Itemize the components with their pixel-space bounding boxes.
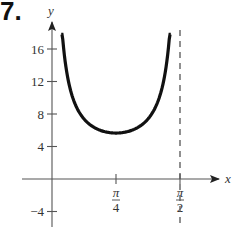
x-axis-label: x [224, 171, 231, 186]
x-ticks: π4π2 [112, 174, 184, 215]
x-tick-label-denominator: 4 [113, 200, 120, 215]
chart: x y −4481216 π4π2 [0, 0, 235, 230]
axes: x y [22, 3, 231, 227]
y-ticks: −4481216 [30, 42, 57, 220]
y-axis-label: y [46, 3, 54, 18]
y-tick-label: 12 [31, 74, 44, 89]
y-tick-label: 4 [38, 139, 45, 154]
x-tick-label-numerator: π [113, 185, 120, 200]
y-tick-label: 16 [31, 42, 45, 57]
y-tick-label: −4 [30, 204, 44, 219]
function-curve [61, 34, 171, 133]
y-tick-label: 8 [38, 107, 45, 122]
